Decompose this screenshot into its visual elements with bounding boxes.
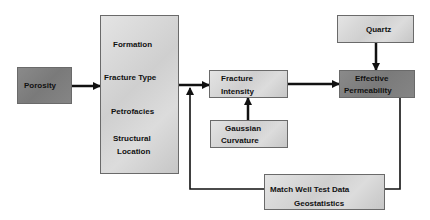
gaussian-curvature-node: Gaussian Curvature bbox=[210, 120, 288, 148]
match-well-test-node: Match Well Test Data Geostatistics bbox=[264, 174, 385, 210]
effective-permeability-line2: Permeability bbox=[344, 86, 392, 95]
porosity-label: Porosity bbox=[24, 81, 56, 90]
factor-location: Location bbox=[117, 147, 150, 156]
porosity-node: Porosity bbox=[17, 67, 72, 104]
quartz-label: Quartz bbox=[366, 25, 391, 34]
factors-node: Formation Fracture Type Petrofacies Stru… bbox=[100, 15, 179, 174]
factor-structural: Structural bbox=[113, 134, 151, 143]
fracture-intensity-node: Fracture Intensity bbox=[209, 70, 288, 98]
fracture-intensity-line2: Intensity bbox=[221, 87, 254, 96]
match-well-test-line2: Geostatistics bbox=[294, 199, 344, 208]
gaussian-curvature-line2: Curvature bbox=[221, 136, 259, 145]
effective-permeability-node: Effective Permeability bbox=[339, 70, 415, 98]
factor-formation: Formation bbox=[113, 40, 152, 49]
fracture-intensity-line1: Fracture bbox=[221, 74, 253, 83]
match-well-test-line1: Match Well Test Data bbox=[270, 185, 349, 194]
factor-petrofacies: Petrofacies bbox=[111, 107, 154, 116]
gaussian-curvature-line1: Gaussian bbox=[225, 124, 261, 133]
effective-permeability-line1: Effective bbox=[355, 74, 388, 83]
factor-fracture-type: Fracture Type bbox=[104, 73, 156, 82]
line-permeability-to-match bbox=[385, 98, 400, 189]
quartz-node: Quartz bbox=[337, 15, 414, 43]
